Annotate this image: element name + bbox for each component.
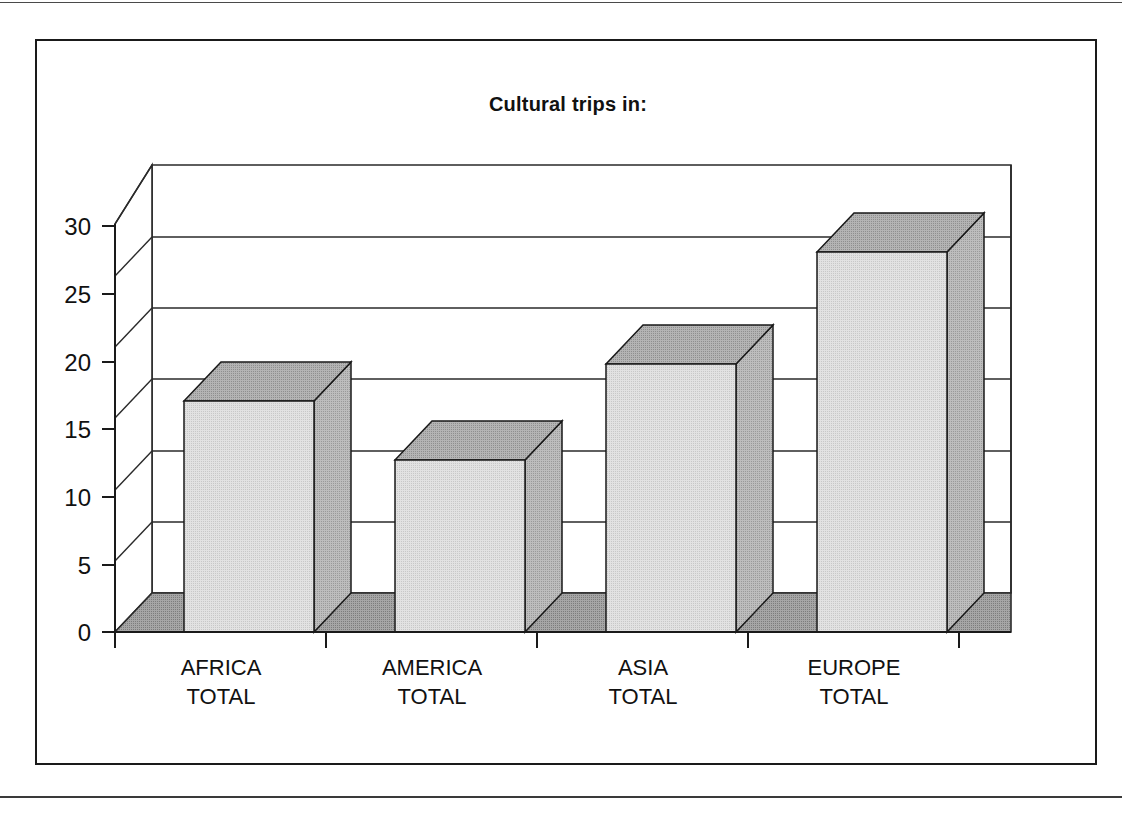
cat-label-africa-line1: AFRICA [181,655,262,680]
y-tick-label-20: 20 [64,349,91,376]
y-tick-label-0: 0 [78,619,91,646]
y-axis: 0 5 10 15 20 25 30 [64,213,115,646]
bar-side-face [314,362,351,632]
cat-label-africa-line2: TOTAL [187,684,256,709]
cat-label-europe-line1: EUROPE [808,655,901,680]
bar-front-face [395,460,525,632]
y-tick-label-15: 15 [64,416,91,443]
bar-front-face [817,252,947,632]
bar-side-face [736,325,773,632]
cat-label-asia-line1: ASIA [618,655,668,680]
x-axis-category-labels: AFRICA TOTAL AMERICA TOTAL ASIA TOTAL EU… [181,655,901,709]
bar-europe-total[interactable] [817,213,984,632]
y-tick-label-5: 5 [78,552,91,579]
scan-artifact-line-top [0,2,1122,3]
bar-side-face [947,213,984,632]
bar-africa-total[interactable] [184,362,351,632]
bar-america-total[interactable] [395,421,562,632]
y-tick-label-30: 30 [64,213,91,240]
cat-label-america-line1: AMERICA [382,655,483,680]
scan-artifact-line-bottom [0,796,1122,798]
cat-label-america-line2: TOTAL [398,684,467,709]
bar-asia-total[interactable] [606,325,773,632]
figure-frame: Cultural trips in: [35,39,1097,765]
bar-front-face [184,401,314,632]
cat-label-asia-line2: TOTAL [609,684,678,709]
bar-chart-3d: 0 5 10 15 20 25 30 [37,41,1099,767]
y-tick-label-10: 10 [64,484,91,511]
bar-front-face [606,364,736,632]
y-tick-label-25: 25 [64,281,91,308]
cat-label-europe-line2: TOTAL [820,684,889,709]
x-axis [115,632,1011,648]
page-root: Cultural trips in: [0,0,1122,814]
